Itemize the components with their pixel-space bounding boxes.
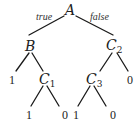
node-c1-letter: C bbox=[39, 71, 50, 87]
node-c3-subscript: 3 bbox=[97, 79, 103, 89]
node-c2-subscript: 2 bbox=[117, 45, 123, 55]
node-c1-subscript: 1 bbox=[50, 79, 56, 89]
edge-label-true: true bbox=[36, 11, 53, 22]
node-c2: C2 bbox=[106, 37, 122, 55]
leaf-c3-0: 0 bbox=[110, 108, 116, 122]
edge-label-false: false bbox=[90, 11, 109, 22]
edge-c2-0 bbox=[117, 53, 128, 71]
decision-tree-diagram: truefalse ABC2C1C3 101010 bbox=[0, 0, 139, 124]
edge-b-c1 bbox=[32, 53, 43, 71]
leaf-c1-1: 1 bbox=[26, 108, 32, 122]
leaf-c3-1: 1 bbox=[73, 108, 79, 122]
leaf-c2-0: 0 bbox=[127, 73, 133, 87]
edge-c3-1 bbox=[78, 86, 90, 106]
node-a: A bbox=[63, 2, 75, 18]
leaf-c1-0: 0 bbox=[62, 108, 68, 122]
node-c1: C1 bbox=[39, 71, 55, 89]
node-a-letter: A bbox=[63, 2, 75, 18]
edge-c2-c3 bbox=[100, 53, 112, 71]
node-b-letter: B bbox=[24, 38, 35, 54]
tree-edges bbox=[16, 16, 128, 106]
edge-c1-0 bbox=[47, 86, 59, 106]
edge-b-1 bbox=[16, 53, 29, 71]
node-c3-letter: C bbox=[86, 71, 97, 87]
node-c3: C3 bbox=[86, 71, 103, 89]
edge-c1-1 bbox=[31, 86, 43, 106]
leaf-b-1: 1 bbox=[9, 73, 15, 87]
node-b: B bbox=[24, 38, 35, 54]
tree-leaves: 101010 bbox=[9, 73, 133, 122]
edge-c3-0 bbox=[94, 86, 106, 106]
node-c2-letter: C bbox=[106, 37, 117, 53]
